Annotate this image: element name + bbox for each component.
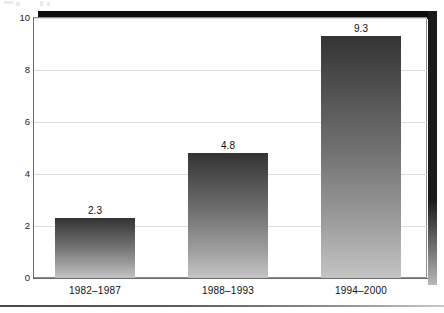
y-axis-tick-labels: 10 8 6 4 2 0 <box>0 0 30 313</box>
page-bottom-rule <box>0 305 444 307</box>
bar-1994-2000[interactable] <box>321 36 401 278</box>
y-tick-label-10: 10 <box>4 13 30 23</box>
y-tick-label-2: 2 <box>4 221 30 231</box>
chart-frame-shadow-right-fade <box>428 200 437 285</box>
x-axis-line <box>33 278 428 279</box>
bar-1982-1987[interactable] <box>55 218 135 278</box>
bar-value-label-1988-1993: 4.8 <box>188 140 268 151</box>
x-axis-category-labels: 1982–1987 1988–1993 1994–2000 <box>34 285 427 303</box>
bar-value-label-1994-2000: 9.3 <box>321 23 401 34</box>
y-tick-label-4: 4 <box>4 169 30 179</box>
y-tick-label-6: 6 <box>4 117 30 127</box>
x-tick-label-1994-2000: 1994–2000 <box>300 285 422 297</box>
y-tick-label-0: 0 <box>4 273 30 283</box>
bar-value-label-1982-1987: 2.3 <box>55 205 135 216</box>
bar-chart-figure: 10 8 6 4 2 0 2.3 4.8 9.3 1982–1987 1988–… <box>0 0 444 313</box>
x-tick-label-1988-1993: 1988–1993 <box>167 285 289 297</box>
bars-layer: 2.3 4.8 9.3 <box>34 18 427 278</box>
bar-group-1994-2000: 9.3 <box>321 18 401 278</box>
bar-1988-1993[interactable] <box>188 153 268 278</box>
bar-group-1982-1987: 2.3 <box>55 18 135 278</box>
bar-group-1988-1993: 4.8 <box>188 18 268 278</box>
y-tick-label-8: 8 <box>4 65 30 75</box>
x-tick-label-1982-1987: 1982–1987 <box>34 285 156 297</box>
